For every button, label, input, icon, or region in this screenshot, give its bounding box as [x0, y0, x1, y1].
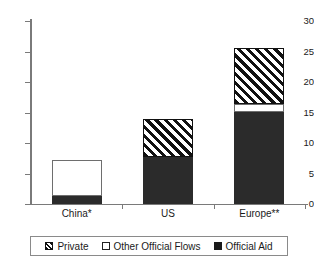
legend-item-label: Other Official Flows: [114, 241, 201, 252]
y-tick-mark: [25, 21, 30, 22]
bar-segment-official-aid: [143, 157, 193, 204]
legend-item-other-official-flows[interactable]: Other Official Flows: [102, 241, 201, 252]
bar-group[interactable]: [143, 21, 193, 204]
hollow-square-icon: [102, 242, 110, 250]
legend-item-label: Private: [57, 241, 88, 252]
y-tick-mark: [25, 82, 30, 83]
legend-item-label: Official Aid: [226, 241, 273, 252]
bar-segment-other-official-flows: [234, 104, 284, 112]
hatched-square-icon: [45, 242, 53, 250]
bar-segment-private: [143, 119, 193, 157]
plot-area: [31, 21, 305, 204]
legend-item-private[interactable]: Private: [45, 241, 88, 252]
y-tick-mark: [25, 143, 30, 144]
solid-square-icon: [214, 242, 222, 250]
stacked-bar-chart: 051015202530 China*USEurope** Private Ot…: [0, 0, 314, 272]
bar-segment-official-aid: [52, 196, 102, 204]
bar-segment-other-official-flows: [52, 160, 102, 196]
y-tick-mark: [25, 113, 30, 114]
bar-group[interactable]: [52, 21, 102, 204]
y-tick-mark: [25, 52, 30, 53]
bar-segment-private: [234, 48, 284, 104]
y-tick-mark: [25, 204, 30, 205]
x-axis-category-label: Europe**: [199, 208, 314, 220]
chart-legend: Private Other Official Flows Official Ai…: [30, 236, 288, 256]
legend-item-official-aid[interactable]: Official Aid: [214, 241, 273, 252]
bar-group[interactable]: [234, 21, 284, 204]
y-tick-mark: [25, 174, 30, 175]
bar-segment-official-aid: [234, 112, 284, 204]
